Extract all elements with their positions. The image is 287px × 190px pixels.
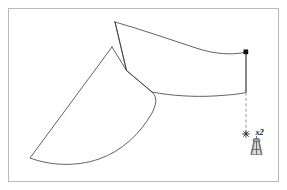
upper-surface-outline	[115, 22, 246, 96]
figure-svg: x2	[0, 0, 287, 190]
star-point-icon	[243, 131, 250, 138]
diagram-canvas: x2	[0, 0, 287, 190]
tripod-theodolite-icon	[251, 136, 262, 154]
lower-surface-outline	[30, 47, 156, 164]
ridge-segment	[115, 22, 127, 71]
frame-border	[9, 9, 279, 182]
square-node-icon	[244, 50, 248, 54]
station-label: x2	[255, 127, 265, 137]
